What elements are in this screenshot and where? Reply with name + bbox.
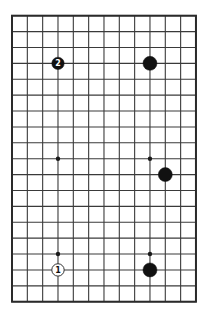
- stone-circle: [143, 263, 157, 277]
- white-stone-1: 1: [52, 264, 64, 276]
- black-stone: [158, 168, 172, 182]
- black-stone-2: 2: [52, 57, 64, 69]
- star-point: [148, 252, 152, 256]
- move-number-label: 2: [55, 59, 61, 68]
- move-number-label: 1: [55, 266, 61, 275]
- go-board-diagram: 21: [0, 0, 206, 310]
- stone-circle: [158, 168, 172, 182]
- star-point: [56, 157, 60, 161]
- board-grid: [12, 16, 196, 302]
- stone-circle: [143, 56, 157, 70]
- black-stone: [143, 263, 157, 277]
- star-point: [56, 252, 60, 256]
- star-point: [148, 157, 152, 161]
- black-stone: [143, 56, 157, 70]
- stones: 21: [52, 56, 173, 277]
